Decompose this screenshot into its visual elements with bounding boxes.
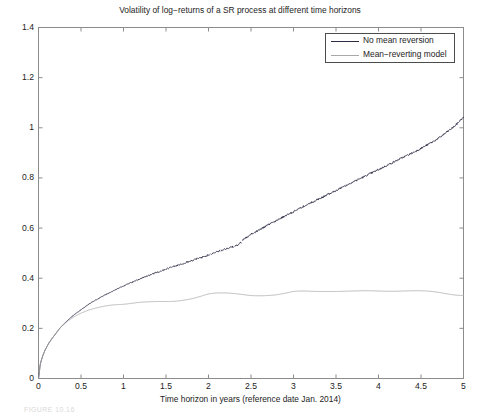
plot-frame xyxy=(39,28,464,379)
x-tick-label: 1.5 xyxy=(146,381,186,391)
series-line-1 xyxy=(39,291,464,379)
series-line-0 xyxy=(235,242,241,246)
figure-container: Volatility of log−returns of a SR proces… xyxy=(0,0,480,418)
legend-swatch-no-mean-reversion xyxy=(331,41,359,42)
y-tick-label: 0.8 xyxy=(0,172,34,182)
x-tick-label: 5 xyxy=(444,381,480,391)
y-tick-label: 0 xyxy=(0,373,34,383)
series-line-0 xyxy=(39,255,210,379)
legend-label-mean-reverting: Mean−reverting model xyxy=(363,49,447,59)
legend-swatch-mean-reverting xyxy=(331,55,359,56)
x-tick-label: 0.5 xyxy=(61,381,101,391)
x-tick-label: 3 xyxy=(274,381,314,391)
y-tick-label: 0.6 xyxy=(0,223,34,233)
x-tick-label: 4.5 xyxy=(401,381,441,391)
y-tick-label: 1 xyxy=(0,122,34,132)
x-tick-label: 1 xyxy=(104,381,144,391)
y-tick-label: 1.2 xyxy=(0,72,34,82)
figure-caption-fragment: FIGURE 10.16 xyxy=(24,406,75,413)
x-tick-label: 3.5 xyxy=(316,381,356,391)
y-tick-label: 1.4 xyxy=(0,22,34,32)
y-tick-label: 0.4 xyxy=(0,273,34,283)
x-tick-label: 2.5 xyxy=(231,381,271,391)
y-tick-label: 0.2 xyxy=(0,323,34,333)
legend-item-no-mean-reversion: No mean reversion xyxy=(326,34,456,49)
chart-legend: No mean reversion Mean−reverting model xyxy=(325,33,455,63)
legend-label-no-mean-reversion: No mean reversion xyxy=(363,35,434,45)
x-tick-label: 4 xyxy=(359,381,399,391)
x-tick-label: 2 xyxy=(189,381,229,391)
series-line-0 xyxy=(243,117,464,240)
series-line-0 xyxy=(221,246,233,251)
legend-item-mean-reverting: Mean−reverting model xyxy=(326,48,456,63)
series-line-0 xyxy=(211,250,220,254)
x-axis-label: Time horizon in years (reference date Ja… xyxy=(38,394,463,404)
